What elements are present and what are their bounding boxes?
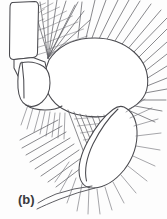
basal-segment <box>10 2 39 60</box>
terminal-long-spine-secondary <box>38 186 92 203</box>
panel-label: (b) <box>18 193 35 206</box>
appendage-line-drawing <box>0 0 167 219</box>
ventral-marginal-setae <box>20 105 89 187</box>
figure-panel: (b) <box>0 0 167 219</box>
main-body-oval <box>45 38 148 117</box>
